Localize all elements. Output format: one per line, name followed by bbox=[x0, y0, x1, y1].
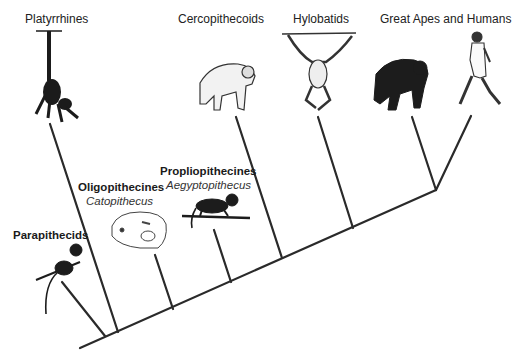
branch-humans bbox=[436, 116, 471, 190]
baboon-illustration bbox=[200, 64, 255, 110]
label-propliopithecines: Propliopithecines bbox=[160, 165, 257, 177]
cladogram-lines bbox=[0, 0, 518, 355]
label-catopithecus: Catopithecus bbox=[86, 195, 153, 207]
gibbon-illustration bbox=[282, 33, 356, 110]
branch-hylobatids bbox=[318, 117, 353, 228]
label-oligopithecines: Oligopithecines bbox=[78, 181, 164, 193]
branch-platyrrhines bbox=[50, 124, 118, 332]
branch-great-apes bbox=[412, 117, 436, 190]
label-cercopithecoids: Cercopithecoids bbox=[178, 12, 264, 26]
label-hylobatids: Hylobatids bbox=[293, 12, 349, 26]
label-aegyptopithecus: Aegyptopithecus bbox=[166, 179, 251, 191]
label-great-apes-humans: Great Apes and Humans bbox=[380, 12, 511, 26]
branch-oligopithecines bbox=[155, 255, 173, 309]
branch-parapithecids bbox=[62, 282, 105, 336]
spider-monkey-illustration bbox=[36, 31, 78, 122]
label-parapithecids: Parapithecids bbox=[13, 229, 88, 241]
parapithecid-illustration bbox=[36, 244, 82, 314]
branch-propliopithecines bbox=[214, 230, 231, 282]
skull-illustration bbox=[112, 212, 166, 248]
propliopithecine-illustration bbox=[182, 194, 250, 228]
label-platyrrhines: Platyrrhines bbox=[25, 12, 88, 26]
chimpanzee-illustration bbox=[374, 59, 428, 110]
human-illustration bbox=[460, 32, 500, 104]
